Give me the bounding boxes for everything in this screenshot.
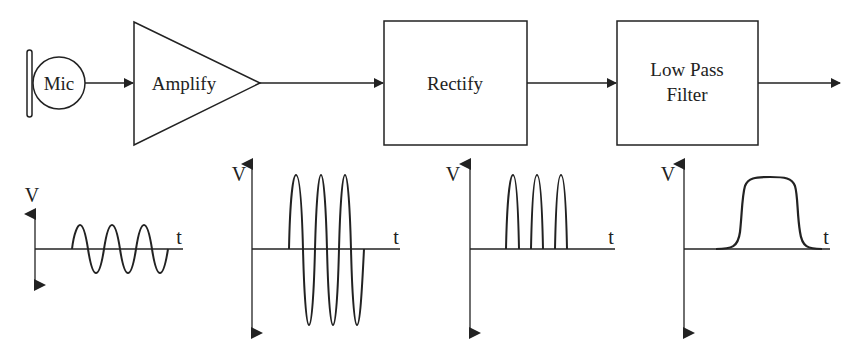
signal-chain-diagram: Mic Amplify Rectify Low Pass Filter V t … xyxy=(0,0,867,349)
waveform-filtered: V t xyxy=(661,163,830,333)
mic-block: Mic xyxy=(27,50,85,117)
rectify-block: Rectify xyxy=(384,21,527,145)
rectify-label: Rectify xyxy=(427,73,483,94)
waveform-amplified: V t xyxy=(232,163,400,333)
envelope-pulse xyxy=(716,177,822,249)
v-axis-label: V xyxy=(446,163,461,185)
v-axis-label: V xyxy=(25,184,40,206)
amplify-block: Amplify xyxy=(134,22,260,145)
lpf-label-line1: Low Pass xyxy=(650,59,723,80)
rectified-pulses xyxy=(506,175,567,249)
t-axis-label: t xyxy=(393,226,399,248)
t-axis-label: t xyxy=(608,226,614,248)
large-sine-wave xyxy=(289,175,364,325)
mic-label: Mic xyxy=(44,73,75,94)
lpf-box xyxy=(617,21,758,145)
mic-plate xyxy=(27,50,32,117)
t-axis-label: t xyxy=(823,226,829,248)
lpf-label-line2: Filter xyxy=(666,84,708,105)
waveform-mic-output: V t xyxy=(25,184,183,285)
v-axis-label: V xyxy=(232,163,247,185)
waveform-rectified: V t xyxy=(446,163,615,333)
v-axis-label: V xyxy=(661,163,676,185)
t-axis-label: t xyxy=(176,226,182,248)
amplify-label: Amplify xyxy=(152,73,217,94)
low-pass-filter-block: Low Pass Filter xyxy=(617,21,758,145)
